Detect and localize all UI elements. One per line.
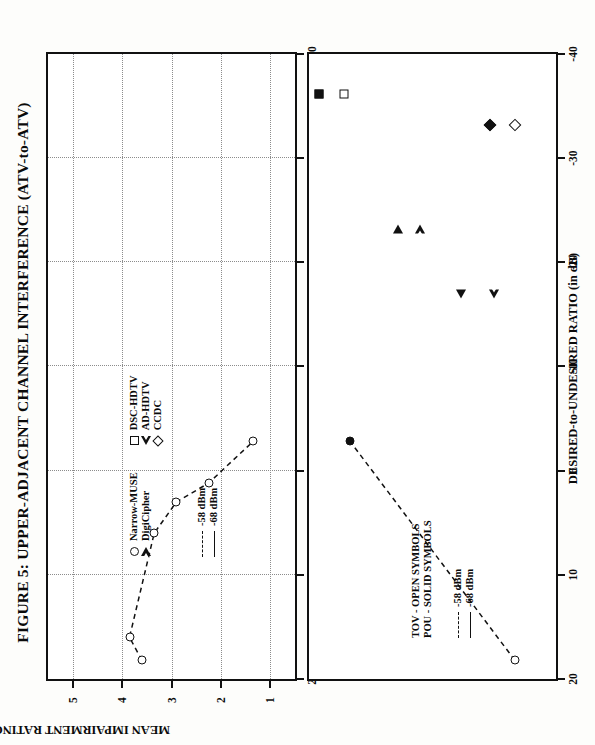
top-chart-y-axis-title: MEAN IMPAIRMENT RATING bbox=[0, 722, 170, 737]
y-axis-tick-label: 3 bbox=[166, 697, 178, 703]
legend-label: TOV - OPEN SYMBOLS bbox=[410, 524, 422, 638]
legend-label: -58 dBm bbox=[452, 569, 464, 607]
legend-item: CCDC bbox=[152, 376, 164, 447]
dashed-line-icon bbox=[458, 612, 459, 638]
figure-page: FIGURE 5: UPPER-ADJACENT CHANNEL INTERFE… bbox=[0, 0, 595, 745]
legend-item: -68 dBm bbox=[464, 569, 476, 638]
legend-label: DSC-HDTV bbox=[128, 376, 140, 431]
top-chart-symbol-legend: Narrow-MUSE DigiCipher DSC-HDTV AD-HDTV bbox=[128, 376, 164, 557]
legend-item: -58 dBm bbox=[196, 488, 208, 557]
x-axis-tick bbox=[556, 366, 565, 368]
legend-item: AD-HDTV bbox=[140, 376, 152, 447]
x-axis-tick bbox=[556, 678, 565, 680]
x-axis-tick bbox=[556, 261, 565, 263]
triangle-left-open-icon bbox=[141, 435, 151, 446]
data-point-circle-open bbox=[249, 437, 258, 446]
data-point-triangle-right-open bbox=[415, 225, 425, 234]
diamond-open-icon bbox=[154, 435, 162, 446]
square-open-icon bbox=[130, 435, 139, 446]
x-axis-tick bbox=[556, 574, 565, 576]
y-axis-tick bbox=[220, 679, 222, 688]
legend-label: CCDC bbox=[152, 400, 164, 430]
x-axis-tick bbox=[295, 470, 304, 472]
legend-label: -58 dBm bbox=[196, 488, 208, 526]
solid-line-icon bbox=[470, 612, 471, 638]
x-axis-tick bbox=[556, 53, 565, 55]
legend-column-2: DSC-HDTV AD-HDTV CCDC bbox=[128, 376, 164, 447]
top-chart-line-legend: -58 dBm -68 dBm bbox=[196, 488, 220, 557]
data-point-triangle-right-solid bbox=[393, 225, 403, 234]
bottom-chart-line-legend: -58 dBm -68 dBm bbox=[452, 569, 476, 638]
data-point-circle-solid bbox=[346, 437, 355, 446]
top-chart-series-line bbox=[48, 54, 295, 679]
x-axis-tick bbox=[295, 366, 304, 368]
data-point-circle-open bbox=[172, 497, 181, 506]
y-axis-tick-label: 4 bbox=[116, 697, 128, 703]
x-axis-tick bbox=[295, 157, 304, 159]
legend-item: DSC-HDTV bbox=[128, 376, 140, 447]
data-point-square-solid bbox=[315, 89, 324, 98]
data-point-triangle-left-open bbox=[489, 289, 499, 298]
x-axis-tick bbox=[295, 261, 304, 263]
legend-label: Narrow-MUSE bbox=[128, 472, 140, 541]
legend-column-1: Narrow-MUSE DigiCipher bbox=[128, 472, 164, 557]
x-axis-tick bbox=[295, 53, 304, 55]
legend-note: TOV - OPEN SYMBOLS bbox=[410, 520, 422, 638]
solid-line-icon bbox=[214, 531, 215, 557]
x-axis-tick bbox=[556, 470, 565, 472]
y-axis-tick bbox=[72, 679, 74, 688]
data-point-square-open bbox=[339, 89, 348, 98]
y-axis-tick bbox=[171, 679, 173, 688]
data-point-circle-open bbox=[510, 656, 519, 665]
data-point-circle-open bbox=[137, 656, 146, 665]
legend-note: POU - SOLID SYMBOLS bbox=[422, 520, 434, 638]
legend-item: -58 dBm bbox=[452, 569, 464, 638]
legend-item: Narrow-MUSE bbox=[128, 472, 140, 557]
circle-open-icon bbox=[130, 546, 139, 557]
legend-label: -68 dBm bbox=[464, 569, 476, 607]
legend-item: DigiCipher bbox=[140, 472, 152, 557]
dashed-line-icon bbox=[202, 531, 203, 557]
legend-item: -68 dBm bbox=[208, 488, 220, 557]
triangle-right-open-icon bbox=[141, 546, 151, 557]
figure-title: FIGURE 5: UPPER-ADJACENT CHANNEL INTERFE… bbox=[14, 0, 32, 745]
y-axis-tick-label: 1 bbox=[264, 697, 276, 703]
data-point-circle-open bbox=[204, 479, 213, 488]
legend-label: DigiCipher bbox=[140, 491, 152, 541]
legend-label: AD-HDTV bbox=[140, 381, 152, 430]
y-axis-tick bbox=[121, 679, 123, 688]
x-axis-tick bbox=[295, 678, 304, 680]
top-chart-panel: 1234520100-10-20-30-40 bbox=[46, 52, 297, 681]
y-axis-tick bbox=[269, 679, 271, 688]
y-axis-tick-label: 2 bbox=[215, 697, 227, 703]
bottom-chart-notes-legend: TOV - OPEN SYMBOLS POU - SOLID SYMBOLS bbox=[410, 520, 434, 638]
data-point-circle-open bbox=[125, 633, 134, 642]
data-point-triangle-left-solid bbox=[456, 289, 466, 298]
legend-label: POU - SOLID SYMBOLS bbox=[422, 520, 434, 638]
y-axis-tick-label: 5 bbox=[67, 697, 79, 703]
bottom-chart-x-axis-title: DESIRED-to-UNDESIRED RATIO (in dB) bbox=[566, 56, 581, 681]
x-axis-tick bbox=[295, 574, 304, 576]
x-axis-tick bbox=[556, 157, 565, 159]
legend-label: -68 dBm bbox=[208, 488, 220, 526]
